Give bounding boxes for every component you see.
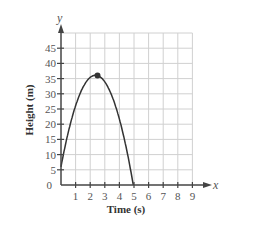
y-tick-label: 40 (45, 57, 57, 69)
x-tick-label: 5 (131, 190, 137, 202)
x-tick-label: 2 (87, 190, 93, 202)
x-tick-label: 3 (102, 190, 108, 202)
y-tick-label: 30 (45, 88, 57, 100)
y-tick-label: 35 (45, 73, 57, 85)
parabola-curve (61, 75, 133, 185)
x-tick-label: 7 (160, 190, 166, 202)
maximum-point-marker (95, 73, 101, 79)
x-tick-label: 6 (146, 190, 152, 202)
y-tick-label: 5 (51, 164, 57, 176)
x-tick-label: 9 (190, 190, 196, 202)
y-axis-variable: y (56, 11, 63, 25)
height-time-chart: 123456789 051015202530354045 x y Time (s… (0, 0, 257, 234)
y-tick-label: 25 (45, 103, 57, 115)
x-axis-variable: x (212, 178, 219, 192)
y-tick-label: 45 (45, 42, 57, 54)
y-tick-label: 0 (47, 179, 53, 191)
y-axis-title: Height (m) (23, 84, 36, 135)
x-axis-arrow-icon (203, 182, 212, 188)
y-axis-arrow-icon (58, 24, 64, 33)
y-tick-label: 15 (45, 133, 57, 145)
x-tick-label: 1 (73, 190, 79, 202)
grid (61, 33, 192, 185)
y-tick-label: 20 (45, 118, 57, 130)
x-tick-label: 8 (175, 190, 181, 202)
x-tick-label: 4 (117, 190, 123, 202)
height-curve (61, 75, 133, 185)
y-tick-label: 10 (45, 149, 57, 161)
x-axis-title: Time (s) (107, 203, 146, 216)
